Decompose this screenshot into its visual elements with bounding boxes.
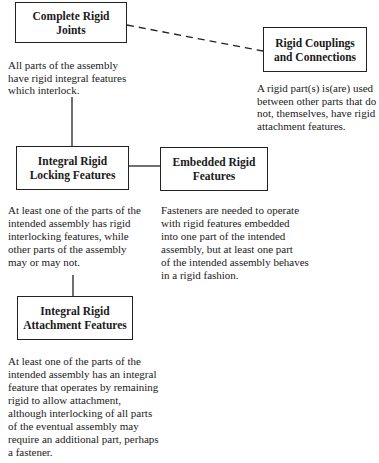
node-title: Embedded Rigid Features (173, 155, 256, 183)
node-title: Complete Rigid Joints (33, 9, 110, 37)
node-rigid-couplings-connections: Rigid Couplings and Connections (263, 27, 367, 72)
node-description-rigid-couplings-connections: A rigid part(s) is(are) used between oth… (257, 82, 376, 132)
edge-dashed-joints-to-couplings (127, 25, 263, 51)
node-description-embedded-rigid-features: Fasteners are needed to operate with rig… (161, 204, 309, 282)
node-title: Integral Rigid Attachment Features (23, 304, 127, 332)
node-description-integral-rigid-attachment-features: At least one of the parts of the intende… (8, 355, 159, 459)
node-integral-rigid-locking-features: Integral Rigid Locking Features (16, 146, 129, 190)
node-description-integral-rigid-locking-features: At least one of the parts of the intende… (8, 204, 141, 269)
node-integral-rigid-attachment-features: Integral Rigid Attachment Features (17, 296, 133, 340)
node-embedded-rigid-features: Embedded Rigid Features (160, 147, 268, 191)
node-title: Rigid Couplings and Connections (274, 36, 356, 64)
node-complete-rigid-joints: Complete Rigid Joints (15, 2, 127, 43)
node-description-complete-rigid-joints: All parts of the assembly have rigid int… (8, 59, 126, 97)
node-title: Integral Rigid Locking Features (30, 154, 116, 182)
